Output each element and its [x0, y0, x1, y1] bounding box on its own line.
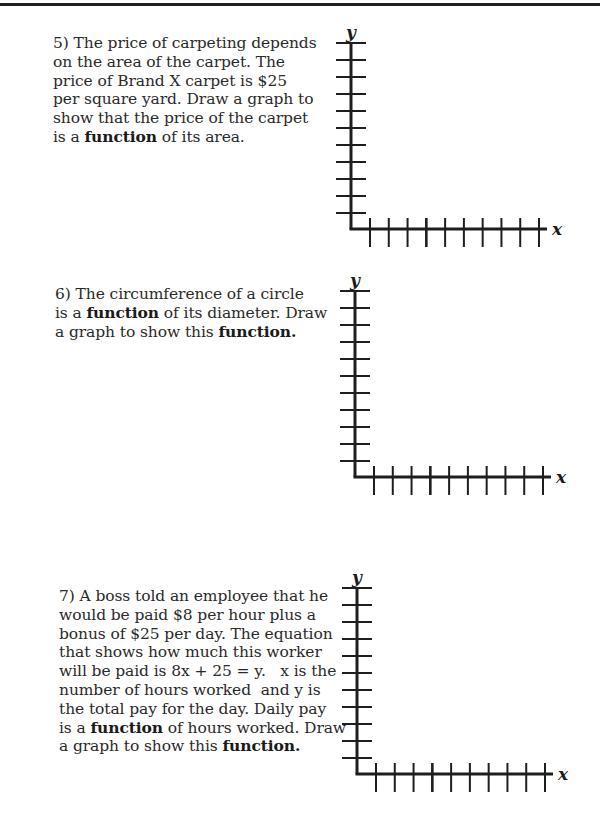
problem-text-line: is a function of its diameter. Draw	[55, 304, 327, 323]
problem-7-text: 7) A boss told an employee that hewould …	[59, 587, 346, 756]
problem-6-graph: yx	[339, 266, 579, 506]
problem-text-line: 7) A boss told an employee that he	[59, 587, 346, 606]
y-axis-label: y	[345, 22, 357, 42]
x-axis-label: x	[555, 467, 567, 487]
problem-text-line: price of Brand X carpet is $25	[53, 72, 317, 91]
problem-text-line: number of hours worked and y is	[59, 681, 346, 700]
problem-text-line: on the area of the carpet. The	[53, 53, 317, 72]
problem-text-line: will be paid is 8x + 25 = y. x is the	[59, 662, 346, 681]
text-run: price of Brand X carpet is $25	[53, 72, 287, 90]
problem-text-line: that shows how much this worker	[59, 643, 346, 662]
problem-text-line: show that the price of the carpet	[53, 109, 317, 128]
problem-text-line: a graph to show this function.	[55, 323, 327, 342]
text-run: of its diameter. Draw	[159, 304, 327, 322]
text-run: of its area.	[157, 128, 245, 146]
text-run: 6) The circumference of a circle	[55, 285, 304, 303]
bold-term: function.	[218, 322, 296, 341]
text-run: per square yard. Draw a graph to	[53, 90, 313, 108]
problem-text-line: per square yard. Draw a graph to	[53, 90, 317, 109]
text-run: would be paid $8 per hour plus a	[59, 606, 316, 624]
text-run: 7) A boss told an employee that he	[59, 587, 328, 605]
text-run: that shows how much this worker	[59, 643, 322, 661]
text-run: a graph to show this	[59, 737, 222, 755]
problem-text-line: a graph to show this function.	[59, 737, 346, 756]
text-run: the total pay for the day. Daily pay	[59, 700, 326, 718]
x-axis-label: x	[551, 219, 563, 239]
header-rule	[0, 3, 600, 6]
text-run: number of hours worked and y is	[59, 681, 321, 699]
text-run: 5) The price of carpeting depends	[53, 34, 317, 52]
bold-term: function	[87, 303, 160, 322]
problem-text-line: bonus of $25 per day. The equation	[59, 625, 346, 644]
problem-text-line: 5) The price of carpeting depends	[53, 34, 317, 53]
text-run: of hours worked. Draw	[163, 719, 346, 737]
text-run: is a	[55, 304, 87, 322]
bold-term: function.	[222, 736, 300, 755]
text-run: will be paid is 8x + 25 = y. x is the	[59, 662, 336, 680]
problem-text-line: would be paid $8 per hour plus a	[59, 606, 346, 625]
problem-text-line: is a function of its area.	[53, 128, 317, 147]
x-axis-label: x	[557, 764, 569, 784]
bold-term: function	[85, 127, 158, 146]
problem-text-line: 6) The circumference of a circle	[55, 285, 327, 304]
y-axis-label: y	[351, 567, 363, 587]
text-run: on the area of the carpet. The	[53, 53, 285, 71]
bold-term: function	[91, 718, 164, 737]
text-run: show that the price of the carpet	[53, 109, 308, 127]
problem-7-graph: yx	[341, 563, 581, 803]
problem-5-graph: yx	[335, 18, 575, 258]
text-run: is a	[53, 128, 85, 146]
problem-text-line: is a function of hours worked. Draw	[59, 719, 346, 738]
problem-text-line: the total pay for the day. Daily pay	[59, 700, 346, 719]
problem-5-text: 5) The price of carpeting dependson the …	[53, 34, 317, 147]
text-run: a graph to show this	[55, 323, 218, 341]
text-run: bonus of $25 per day. The equation	[59, 625, 333, 643]
y-axis-label: y	[349, 270, 361, 290]
text-run: is a	[59, 719, 91, 737]
problem-6-text: 6) The circumference of a circleis a fun…	[55, 285, 327, 341]
